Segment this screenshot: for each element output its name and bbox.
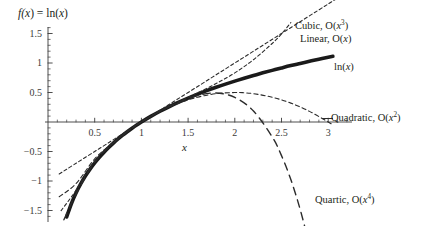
annotation-text: Quadratic, O(x — [331, 112, 393, 123]
annotation-text: Cubic, O(x — [295, 20, 341, 31]
title-eq: ) = ln( — [30, 7, 59, 19]
y-tick-label: −0.5 — [8, 147, 42, 157]
annotation-text: Quartic, O(x — [315, 194, 368, 205]
chart-figure: f(x) = ln(x) x 0.511.522.53 −1.5−1−0.50.… — [0, 0, 425, 226]
x-axis-label: x — [182, 142, 187, 153]
series-annotation-linear: Linear, O(x) — [300, 34, 351, 45]
x-tick-label: 2 — [226, 128, 244, 138]
annotation-text: ln(x — [334, 61, 350, 72]
series-annotation-ln: ln(x) — [334, 62, 354, 73]
series-annotation-cubic: Cubic, O(x3) — [295, 21, 348, 32]
series-line-ln-x — [67, 56, 333, 217]
title-open: (x — [21, 7, 30, 19]
x-tick-label: 1.5 — [179, 128, 197, 138]
annotation-tail: ) — [350, 61, 354, 72]
series-line-quartic-o-x-4 — [64, 93, 314, 226]
series-annotation-quartic: Quartic, O(x4) — [315, 195, 375, 206]
annotation-tail: ) — [371, 194, 375, 205]
y-tick-label: −1 — [8, 176, 42, 186]
title-close: ) — [64, 7, 68, 19]
series-annotation-quadratic: Quadratic, O(x2) — [331, 113, 401, 124]
x-tick-label: 1 — [132, 128, 150, 138]
x-tick-label: 0.5 — [86, 128, 104, 138]
y-tick-label: 1.5 — [8, 29, 42, 39]
plot-title: f(x) = ln(x) — [18, 8, 68, 20]
y-tick-label: 0.5 — [8, 88, 42, 98]
x-tick-label: 2.5 — [273, 128, 291, 138]
annotation-tail: ) — [348, 33, 352, 44]
y-tick-label: −1.5 — [8, 206, 42, 216]
annotation-tail: ) — [397, 112, 401, 123]
annotation-text: Linear, O(x — [300, 33, 348, 44]
series-line-cubic-o-x-3 — [61, 23, 291, 211]
annotation-tail: ) — [345, 20, 349, 31]
y-tick-label: 1 — [8, 58, 42, 68]
x-tick-label: 3 — [319, 128, 337, 138]
